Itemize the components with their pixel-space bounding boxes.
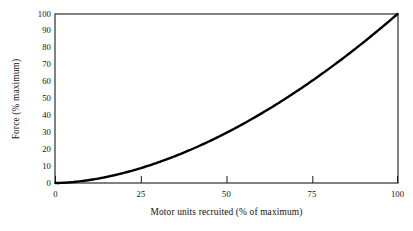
x-tick-label-0: 0 [53,190,57,199]
x-tick-label-25: 25 [137,190,146,199]
chart-figure: 0102030405060708090100 0255075100 Motor … [0,0,413,231]
y-axis-title: Force (% maximum) [11,58,21,139]
x-tick-label-50: 50 [222,190,231,199]
x-axis-tick-labels: 0255075100 [0,0,413,231]
x-axis-title: Motor units recruited (% of maximum) [55,207,398,217]
x-tick-label-100: 100 [391,190,404,199]
y-axis-title-container: Force (% maximum) [9,14,23,183]
x-tick-label-75: 75 [308,190,317,199]
